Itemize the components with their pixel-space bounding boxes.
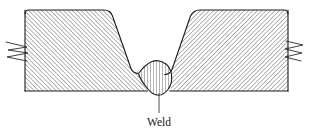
- weld-drawing-canvas: Weld: [0, 0, 309, 133]
- weld-label: Weld: [147, 116, 171, 128]
- left-base-metal-plate: [20, 5, 150, 85]
- weld-cross-section-figure: Weld: [0, 0, 309, 133]
- left-plate-hatching: [20, 5, 150, 85]
- weld-bead: [134, 56, 178, 100]
